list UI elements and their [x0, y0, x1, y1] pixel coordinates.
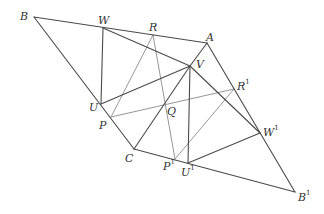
diagram-lines: [0, 0, 324, 214]
point-superscript: 1: [306, 189, 310, 197]
point-label-B: B: [20, 11, 28, 22]
point-letter: P: [99, 119, 106, 132]
point-label-U1: U1: [181, 167, 195, 178]
point-letter: W: [263, 126, 274, 139]
point-letter: R: [149, 21, 157, 34]
point-letter: B: [20, 10, 28, 23]
point-label-A: A: [206, 32, 214, 43]
point-label-P1: P1: [163, 161, 175, 172]
segment-U1-W1: [188, 133, 260, 163]
point-label-C: C: [125, 153, 133, 164]
point-letter: C: [125, 152, 133, 165]
segment-C-B1: [134, 149, 295, 192]
segment-V-U1: [188, 66, 190, 163]
point-label-U: U: [89, 102, 98, 113]
segment-R-P1: [153, 35, 175, 159]
point-label-P: P: [99, 120, 106, 131]
point-letter: W: [98, 14, 109, 27]
geometry-diagram: BWRAVUPQR1CP1U1W1B1: [0, 0, 324, 214]
point-letter: U: [89, 101, 98, 114]
segment-A-B1: [207, 43, 295, 192]
point-label-W1: W1: [263, 127, 279, 138]
point-label-W: W: [98, 15, 109, 26]
segment-W-U: [101, 28, 103, 104]
point-label-B1: B1: [298, 192, 311, 203]
point-superscript: 1: [190, 164, 194, 172]
point-superscript: 1: [170, 158, 174, 166]
point-letter: B: [298, 191, 306, 204]
point-label-Q: Q: [167, 106, 176, 117]
segment-B-A: [34, 17, 207, 43]
point-letter: A: [206, 31, 214, 44]
point-label-R: R: [149, 22, 157, 33]
point-letter: Q: [167, 105, 176, 118]
point-superscript: 1: [245, 78, 249, 86]
point-label-V: V: [196, 59, 204, 70]
point-letter: U: [181, 166, 190, 179]
segment-V-W1: [190, 66, 260, 133]
point-letter: V: [196, 58, 204, 71]
point-superscript: 1: [274, 124, 278, 132]
segment-B-C: [34, 17, 134, 149]
point-label-R1: R1: [237, 81, 250, 92]
